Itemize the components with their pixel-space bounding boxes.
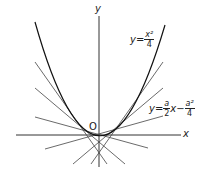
diagram: y x O y=x²4 y=a2x−a²4 — [0, 0, 214, 181]
diagram-canvas — [0, 0, 214, 181]
y-axis-label: y — [95, 4, 101, 14]
parabola-label: y=x²4 — [130, 30, 154, 49]
origin-label: O — [89, 122, 97, 132]
x-axis-label: x — [183, 129, 189, 139]
tangent-label: y=a2x−a²4 — [149, 99, 195, 118]
